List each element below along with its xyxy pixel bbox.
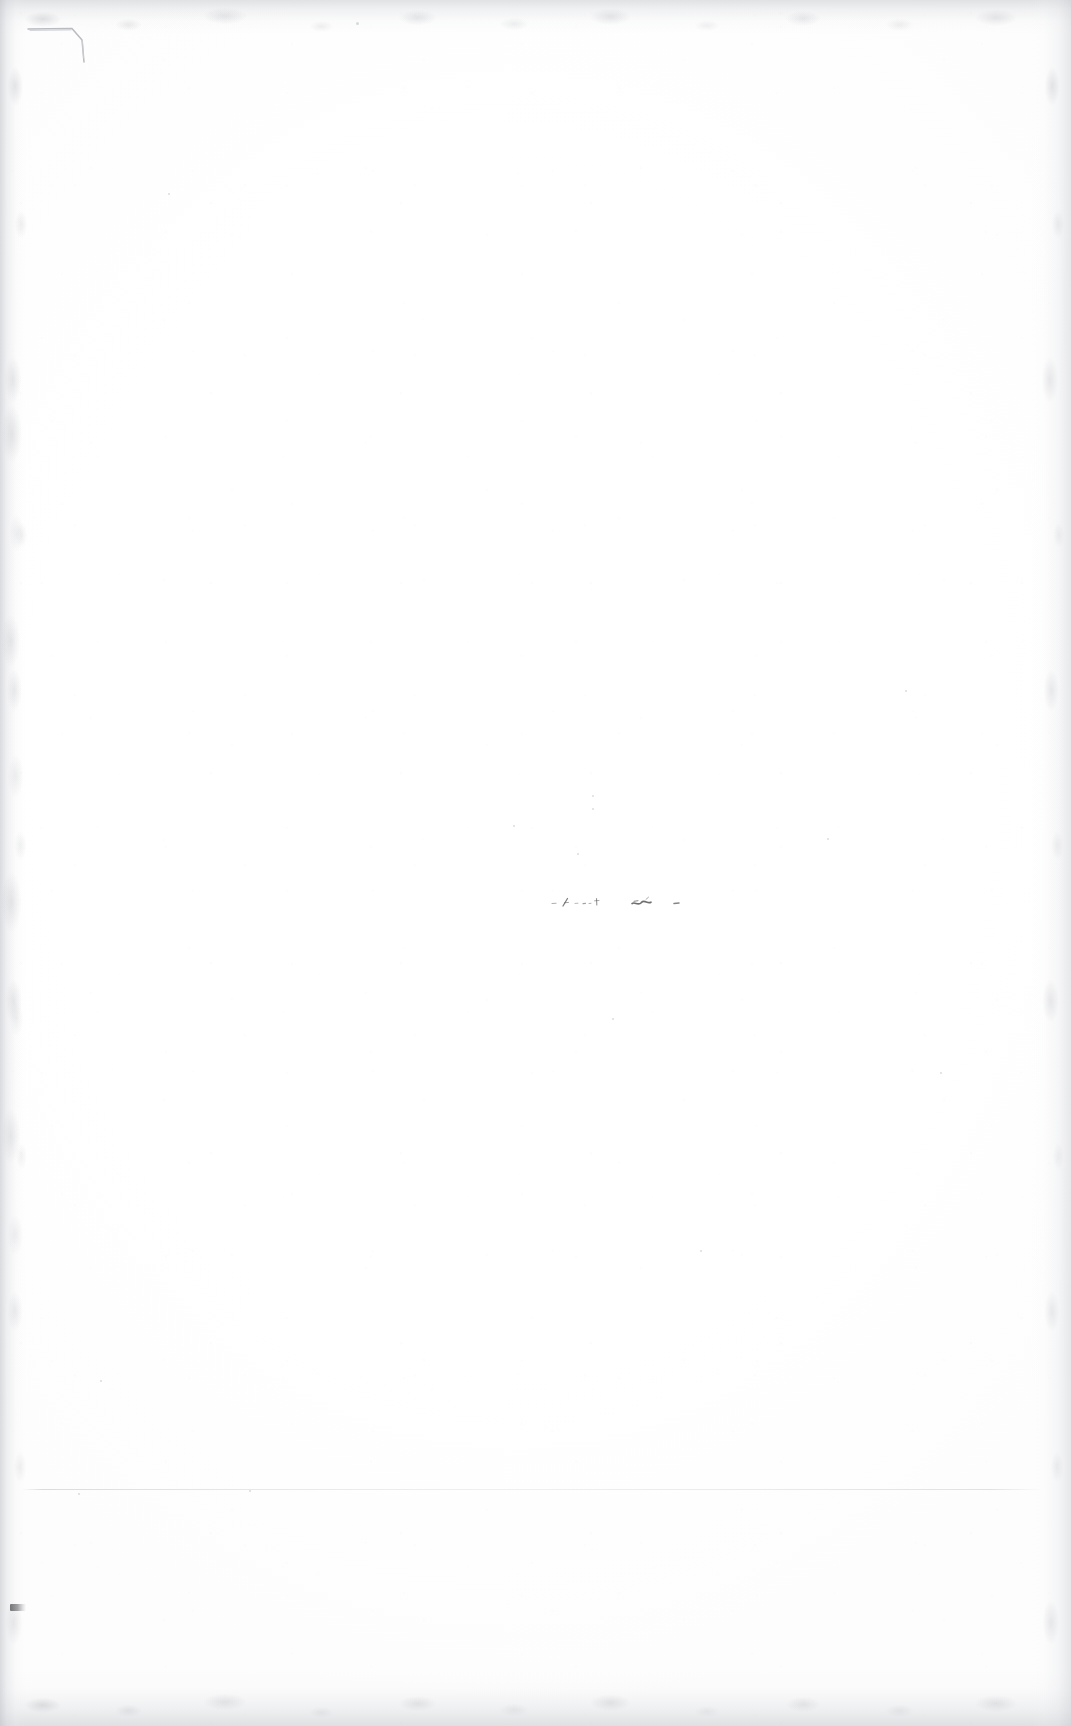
scanned-page: Blank scanned book page: [0, 0, 1071, 1726]
paper-background: [0, 0, 1071, 1726]
